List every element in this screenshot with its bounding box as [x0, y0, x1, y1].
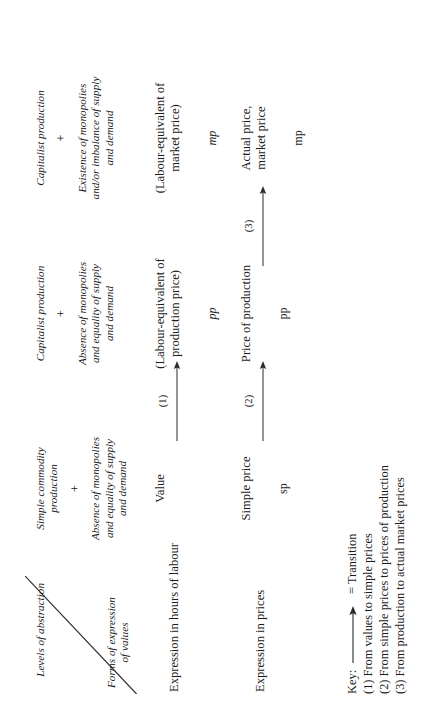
cell-code: pp: [205, 230, 220, 397]
cell-text: (Labour-equivalent ofproduction price): [153, 230, 183, 397]
cell-text: Price of production: [239, 230, 254, 397]
table-header-row: Levels of abstraction Forms of expressio…: [25, 50, 137, 694]
cell-labour-equivalent-production-price: (1) (Labour-equivalent ofproduction pric…: [137, 226, 223, 401]
levels-of-abstraction-table: Levels of abstraction Forms of expressio…: [25, 50, 309, 694]
column-header-level: Simple commodityproduction: [34, 410, 61, 567]
column-header-condition: Absence of monopoliesand equality of sup…: [89, 410, 129, 567]
key-item-list: (1) From values to simple prices (2) Fro…: [361, 465, 409, 694]
cell-value-text: Value: [153, 405, 168, 572]
key-item-2: (2) From simple prices to prices of prod…: [377, 465, 393, 694]
rotated-figure-wrapper: Levels of abstraction Forms of expressio…: [0, 0, 428, 720]
forms-of-expression-label: Forms of expression of values: [105, 597, 131, 688]
key-item-1: (1) From values to simple prices: [361, 465, 377, 694]
forms-label-line1: Forms of expression: [105, 597, 117, 688]
column-header-level: Capitalist production: [34, 235, 47, 392]
cell-simple-price: Simple price sp: [223, 401, 309, 576]
cell-code: sp: [276, 405, 291, 572]
row-stub-prices: Expression in prices: [223, 576, 309, 694]
cell-price-of-production: (2) Price of production pp: [223, 226, 309, 401]
column-header-condition: Existence of monopoliesand/or imbalance …: [76, 59, 116, 217]
value-forms-figure: Levels of abstraction Forms of expressio…: [0, 0, 428, 720]
cell-labour-equivalent-market-price: (Labour-equivalent ofmarket price) mp: [137, 50, 223, 226]
column-header-plus: +: [68, 410, 82, 567]
column-header-capitalist-monopoly: Capitalist production + Existence of mon…: [25, 50, 137, 226]
table-row-prices: Expression in prices Simple price sp (2): [223, 50, 309, 694]
table-row-hours-of-labour: Expression in hours of labour Value (1): [137, 50, 223, 694]
key-transition-text: = Transition: [345, 534, 361, 594]
key-item-3: (3) From production to actual market pri…: [393, 465, 409, 694]
forms-label-line2: of values: [118, 622, 130, 662]
levels-of-abstraction-label: Levels of abstraction: [34, 583, 46, 677]
cell-text: (Labour-equivalent ofmarket price): [153, 54, 183, 222]
column-header-level: Capitalist production: [34, 59, 47, 217]
cell-text: Actual price,market price: [239, 54, 269, 222]
column-header-simple-commodity: Simple commodityproduction + Absence of …: [25, 401, 137, 576]
key-label: Key:: [345, 670, 361, 694]
column-header-condition: Absence of monopoliesand equality of sup…: [76, 235, 116, 392]
column-header-capitalist-equilibrium: Capitalist production + Absence of monop…: [25, 226, 137, 401]
cell-code: mp: [291, 54, 306, 222]
cell-code: pp: [276, 230, 291, 397]
cell-actual-market-price: (3) Actual price,market price mp: [223, 50, 309, 226]
right-arrow-icon: [348, 601, 358, 663]
row-stub-hours-of-labour: Expression in hours of labour: [137, 576, 223, 694]
key-legend: Key: = Transition (1) From values to sim…: [345, 465, 409, 694]
column-header-plus: +: [54, 59, 68, 217]
cell-code: mp: [205, 54, 220, 222]
key-header-row: Key: = Transition: [345, 465, 361, 694]
column-header-plus: +: [54, 235, 68, 392]
cell-text: Simple price: [239, 405, 254, 572]
corner-stub-cell: Levels of abstraction Forms of expressio…: [25, 576, 137, 694]
cell-value: Value: [137, 401, 223, 576]
